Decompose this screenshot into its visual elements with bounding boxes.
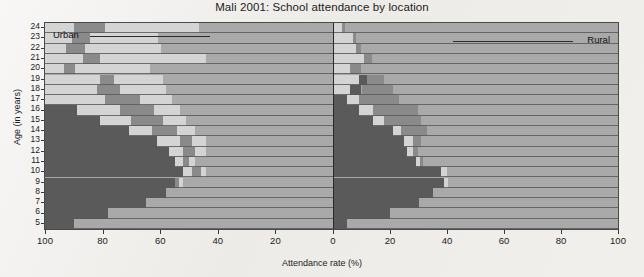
x-tick-mark-right-80 [561,230,562,234]
y-tick-label-12: 12 [31,145,40,155]
x-tick-label-left-100: 100 [37,235,53,246]
bar-row-age-13 [45,136,618,146]
y-tick-label-20: 20 [31,62,40,72]
x-tick-label-left-40: 40 [213,235,224,246]
y-tick-label-13: 13 [31,134,40,144]
x-tick-label-right-0: 0 [330,235,335,246]
annotation-urban: Urban [53,29,79,40]
row-separator [45,146,618,147]
annotation-rural: Rural [587,34,610,45]
row-separator [45,32,618,33]
x-tick-mark-left-20 [275,230,276,234]
chart-root: Mali 2001: School attendance by location… [0,0,644,277]
x-tick-mark-right-100 [618,230,619,234]
bar-row-age-8 [45,188,618,198]
row-separator [45,125,618,126]
row-separator [45,156,618,157]
x-axis-title: Attendance rate (%) [0,258,644,268]
row-separator [45,73,618,74]
bar-row-age-7 [45,198,618,208]
x-tick-mark-right-60 [504,230,505,234]
bar-row-age-17 [45,95,618,105]
row-separator [45,187,618,188]
bar-row-age-16 [45,105,618,115]
x-tick-label-right-100: 100 [610,235,626,246]
row-separator [45,166,618,167]
row-separator [45,228,618,229]
zero-axis-line [333,23,334,229]
y-tick-label-10: 10 [31,165,40,175]
y-tick-label-8: 8 [35,186,40,196]
plot-area: Urban Rural [44,22,619,230]
bar-row-age-22 [45,44,618,54]
x-tick-mark-left-60 [160,230,161,234]
row-separator [45,43,618,44]
y-tick-label-11: 11 [31,155,40,165]
x-tick-mark-right-20 [390,230,391,234]
row-separator [45,197,618,198]
y-tick-label-19: 19 [31,73,40,83]
row-separator [45,218,618,219]
y-tick-label-5: 5 [35,217,40,227]
y-axis-tick-labels: 24232221201918171615141312111098765 [0,22,44,230]
y-tick-label-9: 9 [35,176,40,186]
bar-row-age-10 [45,167,618,177]
x-tick-mark-right-0 [333,230,334,234]
bar-row-age-15 [45,116,618,126]
row-separator [45,115,618,116]
y-tick-label-18: 18 [31,83,40,93]
y-tick-label-7: 7 [35,196,40,206]
bar-row-age-12 [45,147,618,157]
chart-title: Mali 2001: School attendance by location [0,1,644,13]
y-tick-label-24: 24 [31,21,40,31]
x-tick-label-right-20: 20 [385,235,396,246]
annotation-urban-leader-line [90,36,210,37]
y-tick-label-14: 14 [31,124,40,134]
row-separator [45,53,618,54]
y-tick-label-22: 22 [31,42,40,52]
x-tick-mark-left-40 [218,230,219,234]
row-separator [45,84,618,85]
y-tick-label-17: 17 [31,93,40,103]
bar-row-age-21 [45,54,618,64]
bar-row-age-24 [45,23,618,33]
x-tick-mark-left-80 [103,230,104,234]
bar-row-age-5 [45,219,618,229]
bar-row-age-6 [45,208,618,218]
x-tick-label-left-80: 80 [97,235,108,246]
row-separator [45,207,618,208]
y-tick-label-6: 6 [35,206,40,216]
y-tick-label-16: 16 [31,103,40,113]
bar-row-age-20 [45,64,618,74]
bar-row-age-23 [45,33,618,43]
y-tick-label-21: 21 [31,52,40,62]
x-tick-label-right-40: 40 [442,235,453,246]
row-separator [45,63,618,64]
row-separator [45,176,618,177]
bar-row-age-9 [45,178,618,188]
row-separator [45,94,618,95]
x-tick-label-right-80: 80 [556,235,567,246]
y-tick-label-15: 15 [31,114,40,124]
bar-row-age-14 [45,126,618,136]
x-tick-mark-right-40 [447,230,448,234]
x-tick-label-left-20: 20 [270,235,281,246]
annotation-rural-leader-line [453,41,573,42]
y-tick-label-23: 23 [31,31,40,41]
bar-row-age-19 [45,75,618,85]
x-axis: 10080604020020406080100 [44,230,620,254]
bar-row-age-11 [45,157,618,167]
x-tick-mark-left-100 [45,230,46,234]
row-separator [45,104,618,105]
row-separator [45,135,618,136]
x-tick-label-right-60: 60 [499,235,510,246]
x-tick-label-left-60: 60 [155,235,166,246]
bar-row-age-18 [45,85,618,95]
